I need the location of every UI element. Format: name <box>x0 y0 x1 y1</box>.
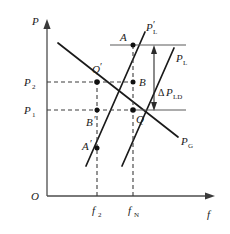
dot-point-b-prime <box>95 108 100 113</box>
x-axis-label: f <box>207 208 212 220</box>
delta-p-label: P <box>165 86 173 98</box>
curve-sub-generator-line: G <box>188 142 193 150</box>
curves-group <box>58 32 178 166</box>
point-label-b: B <box>139 76 146 88</box>
delta-symbol: Δ <box>158 87 165 98</box>
curve-label-load-line: P <box>175 52 183 64</box>
delta-p-arrow-group <box>151 45 157 111</box>
y-tick-label-p1: P <box>23 104 31 116</box>
point-prime-q-prime: ′ <box>100 61 102 72</box>
curve-load-line-shifted <box>86 32 145 166</box>
y-tick-sub-p2: 2 <box>32 83 36 91</box>
x-axis-arrowhead <box>205 192 215 199</box>
dot-point-a-prime <box>95 146 100 151</box>
dot-point-q <box>130 107 136 113</box>
origin-label: O <box>31 190 39 202</box>
point-prime-b-prime: ′ <box>94 114 96 125</box>
point-label-b-prime: B <box>86 116 93 128</box>
y-tick-label-p2: P <box>23 76 31 88</box>
axes-group <box>43 19 215 200</box>
dot-point-q-prime <box>94 79 100 85</box>
x-tick-label-f2: f <box>92 204 97 216</box>
point-label-q-prime: Q <box>92 63 100 75</box>
x-tick-label-fn: f <box>128 204 133 216</box>
dot-point-b <box>131 80 136 85</box>
y-tick-sub-p1: 1 <box>32 111 36 119</box>
dot-point-a <box>131 43 136 48</box>
y-axis-label: P <box>31 15 39 27</box>
x-tick-sub-f2: 2 <box>98 211 102 219</box>
delta-p-sub: LD <box>173 93 182 101</box>
point-label-a-prime: A <box>81 140 89 152</box>
frequency-power-characteristic-figure: P f O P 2 P 1 f 2 f N P ′ L P L P G A Q … <box>0 0 230 234</box>
point-label-a: A <box>119 31 127 43</box>
curve-label-load-line-shifted: P <box>145 21 153 33</box>
delta-p-arrowhead-top <box>151 45 157 54</box>
curve-sub-load-line-shifted: L <box>153 28 157 36</box>
x-tick-sub-fn: N <box>134 211 139 219</box>
curve-label-generator-line: P <box>180 135 188 147</box>
point-prime-a-prime: ′ <box>90 138 92 149</box>
y-axis-arrowhead <box>43 19 50 29</box>
point-label-q: Q <box>136 113 144 125</box>
labels-group: P f O P 2 P 1 f 2 f N P ′ L P L P G A Q … <box>23 15 212 220</box>
figure-canvas: P f O P 2 P 1 f 2 f N P ′ L P L P G A Q … <box>0 0 230 234</box>
curve-sub-load-line: L <box>183 59 187 67</box>
